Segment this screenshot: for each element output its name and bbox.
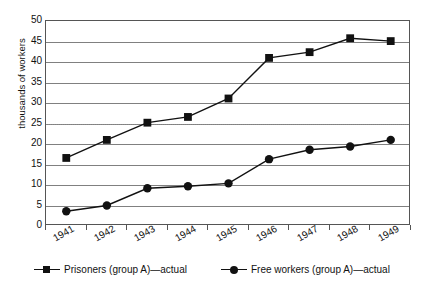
chart-legend: Prisoners (group A)—actualFree workers (…: [0, 258, 424, 280]
circle-marker-icon: [265, 155, 273, 163]
circle-marker-icon: [224, 179, 232, 187]
square-marker-icon: [265, 54, 273, 62]
x-axis-tick-labels: 194119421943194419451946194719481949: [45, 228, 410, 258]
circle-marker-icon: [184, 182, 192, 190]
circle-marker-icon: [346, 142, 354, 150]
square-marker-icon: [225, 95, 233, 103]
square-marker-icon: [34, 264, 60, 274]
square-marker-icon: [43, 266, 50, 273]
y-axis-tick-label: 30: [22, 97, 42, 107]
legend-item: Free workers (group A)—actual: [221, 264, 390, 275]
square-marker-icon: [103, 136, 111, 144]
circle-marker-icon: [230, 266, 238, 274]
plot-area: [45, 20, 410, 225]
series-line: [66, 140, 390, 211]
y-axis-tick-labels: 50454035302520151050: [22, 0, 42, 287]
square-marker-icon: [184, 113, 192, 121]
y-axis-tick-label: 40: [22, 56, 42, 66]
y-axis-tick-label: 45: [22, 36, 42, 46]
circle-marker-icon: [387, 136, 395, 144]
square-marker-icon: [346, 34, 354, 42]
y-axis-tick-label: 25: [22, 118, 42, 128]
square-marker-icon: [143, 119, 151, 127]
circle-marker-icon: [103, 201, 111, 209]
circle-marker-icon: [305, 146, 313, 154]
y-axis-tick-label: 5: [22, 200, 42, 210]
square-marker-icon: [306, 48, 314, 56]
y-axis-tick-label: 0: [22, 220, 42, 230]
y-axis-tick-label: 10: [22, 179, 42, 189]
series-layer: [46, 21, 411, 226]
x-axis-tick: [410, 225, 411, 230]
y-axis-tick-label: 20: [22, 138, 42, 148]
y-axis-tick-label: 35: [22, 77, 42, 87]
square-marker-icon: [62, 154, 70, 162]
legend-item: Prisoners (group A)—actual: [34, 264, 187, 275]
legend-label: Prisoners (group A)—actual: [64, 264, 187, 275]
legend-label: Free workers (group A)—actual: [251, 264, 390, 275]
line-chart: thousands of workers 5045403530252015105…: [0, 0, 424, 287]
circle-marker-icon: [62, 207, 70, 215]
square-marker-icon: [387, 37, 395, 45]
circle-marker-icon: [143, 184, 151, 192]
y-axis-tick-label: 50: [22, 15, 42, 25]
circle-marker-icon: [221, 264, 247, 274]
y-axis-tick-label: 15: [22, 159, 42, 169]
